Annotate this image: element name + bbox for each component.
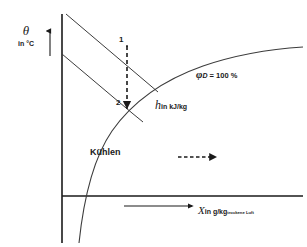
x-axis-unit-subscript: trockene Luft — [227, 210, 254, 215]
state-point-2-marker — [126, 107, 128, 109]
saturation-value: = 100 % — [210, 71, 238, 80]
isenthalp-line-lower-tail — [132, 113, 143, 122]
x-axis-unit: in g/kg — [205, 208, 228, 215]
process-label: Kühlen — [90, 148, 121, 157]
x-axis-label: Xin g/kgtrockene Luft — [198, 201, 254, 218]
saturation-line-label: φD = 100 % — [196, 69, 237, 81]
state-point-2-label: 2 — [116, 99, 120, 107]
saturation-curve — [79, 47, 303, 243]
mollier-hx-diagram: θ in °C 1 2 hin kJ/kg φD = 100 % Kühlen … — [0, 0, 307, 247]
state-point-1-marker — [126, 45, 128, 47]
isenthalp-line-lower — [62, 54, 132, 113]
x-axis-symbol: X — [198, 204, 205, 216]
diagram-canvas — [0, 0, 307, 247]
enthalpy-label: hin kJ/kg — [155, 96, 187, 113]
y-axis-unit: in °C — [18, 40, 34, 47]
isenthalp-line-upper — [66, 14, 158, 92]
saturation-subscript: D — [202, 72, 207, 79]
state-point-1-label: 1 — [119, 36, 123, 44]
y-axis-label: θ in °C — [18, 22, 34, 47]
y-axis-symbol: θ — [23, 23, 29, 38]
enthalpy-unit: in kJ/kg — [161, 103, 187, 110]
